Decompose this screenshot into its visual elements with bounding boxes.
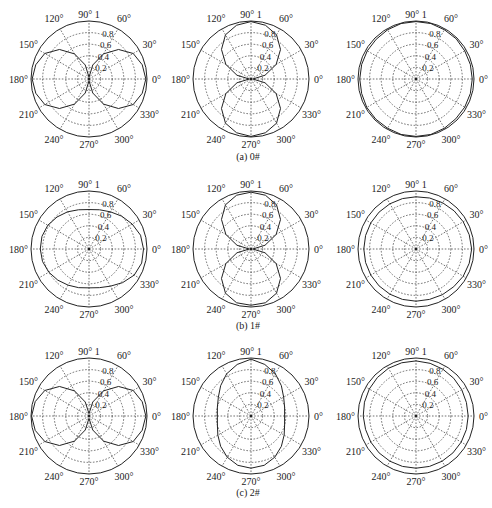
angle-label: 180°	[9, 74, 28, 85]
radial-label: 0.8	[102, 199, 114, 209]
angle-label: 270°	[407, 309, 426, 320]
angle-label: 300°	[115, 134, 134, 145]
radial-label: 0.8	[264, 29, 276, 39]
angle-label: 300°	[442, 304, 461, 315]
angle-label: 90° 1	[240, 9, 262, 20]
polar-plot-2: 0.20.40.60.80°30°60°90° 1120°150°180°210…	[336, 9, 488, 150]
angle-label: 120°	[45, 13, 64, 24]
radial-label: 0.2	[422, 63, 433, 73]
angle-label: 270°	[80, 139, 99, 150]
angle-label: 330°	[302, 279, 321, 290]
angle-label: 300°	[115, 471, 134, 482]
angle-label: 120°	[372, 350, 391, 361]
angle-label: 120°	[45, 183, 64, 194]
angle-label: 180°	[336, 411, 355, 422]
radial-label: 0.6	[262, 40, 274, 50]
angle-label: 150°	[346, 39, 365, 50]
angle-label: 30°	[470, 39, 484, 50]
radial-label: 0.4	[98, 52, 110, 62]
angle-label: 210°	[181, 109, 200, 120]
radial-label: 0.6	[262, 210, 274, 220]
angle-label: 150°	[181, 209, 200, 220]
angle-label: 300°	[277, 134, 296, 145]
angle-label: 300°	[442, 134, 461, 145]
angle-label: 60°	[117, 350, 131, 361]
angle-label: 120°	[372, 13, 391, 24]
angle-label: 240°	[207, 471, 226, 482]
angle-label: 210°	[181, 446, 200, 457]
angle-label: 0°	[479, 411, 488, 422]
radial-label: 0.2	[422, 400, 433, 410]
angle-label: 210°	[346, 446, 365, 457]
radial-label: 0.8	[102, 29, 114, 39]
angle-label: 330°	[140, 279, 159, 290]
angle-label: 270°	[407, 139, 426, 150]
radial-label: 0.4	[425, 52, 437, 62]
angle-label: 30°	[305, 39, 319, 50]
angle-label: 120°	[207, 13, 226, 24]
polar-plot-5: 0.20.40.60.80°30°60°90° 1120°150°180°210…	[336, 179, 488, 320]
polar-plot-0: 0.20.40.60.80°30°60°90° 1120°150°180°210…	[9, 9, 161, 150]
angle-label: 30°	[143, 376, 157, 387]
angle-label: 150°	[181, 376, 200, 387]
angle-label: 210°	[19, 279, 38, 290]
angle-label: 60°	[444, 350, 458, 361]
angle-label: 120°	[45, 350, 64, 361]
radial-label: 0.6	[427, 40, 439, 50]
radial-label: 0.4	[260, 389, 272, 399]
radial-label: 0.4	[425, 222, 437, 232]
angle-label: 240°	[372, 471, 391, 482]
angle-label: 210°	[346, 109, 365, 120]
angle-label: 330°	[467, 279, 486, 290]
angle-label: 270°	[242, 139, 261, 150]
angle-label: 180°	[336, 74, 355, 85]
radial-label: 0.2	[257, 233, 268, 243]
angle-label: 300°	[277, 471, 296, 482]
angle-label: 240°	[372, 134, 391, 145]
radial-label: 0.6	[262, 377, 274, 387]
angle-label: 90° 1	[78, 9, 100, 20]
angle-label: 210°	[181, 279, 200, 290]
radial-label: 0.6	[100, 40, 112, 50]
angle-label: 210°	[19, 109, 38, 120]
angle-label: 330°	[467, 446, 486, 457]
angle-label: 180°	[9, 411, 28, 422]
angle-label: 90° 1	[240, 179, 262, 190]
angle-label: 60°	[279, 350, 293, 361]
radial-label: 0.4	[425, 389, 437, 399]
angle-label: 300°	[277, 304, 296, 315]
caption-c: (c) 2#	[188, 487, 308, 498]
angle-label: 270°	[242, 309, 261, 320]
angle-label: 90° 1	[405, 179, 427, 190]
angle-label: 60°	[117, 13, 131, 24]
angle-label: 0°	[314, 244, 323, 255]
radial-label: 0.8	[264, 366, 276, 376]
angle-label: 90° 1	[78, 346, 100, 357]
angle-label: 150°	[346, 376, 365, 387]
angle-label: 240°	[372, 304, 391, 315]
caption-a: (a) 0#	[188, 151, 308, 162]
radial-label: 0.4	[98, 389, 110, 399]
caption-b: (b) 1#	[188, 320, 308, 331]
polar-plot-3: 0.20.40.60.80°30°60°90° 1120°150°180°210…	[9, 179, 161, 320]
angle-label: 30°	[470, 376, 484, 387]
polar-plot-4: 0.20.40.60.80°30°60°90° 1120°150°180°210…	[171, 179, 323, 320]
angle-label: 240°	[45, 304, 64, 315]
angle-label: 0°	[479, 244, 488, 255]
angle-label: 270°	[407, 476, 426, 487]
radial-label: 0.2	[95, 233, 106, 243]
angle-label: 180°	[336, 244, 355, 255]
radial-label: 0.2	[95, 63, 106, 73]
angle-label: 300°	[115, 304, 134, 315]
angle-label: 30°	[305, 376, 319, 387]
angle-label: 210°	[346, 279, 365, 290]
angle-label: 330°	[302, 446, 321, 457]
angle-label: 330°	[140, 446, 159, 457]
polar-plot-7: 0.20.40.60.80°30°60°90° 1120°150°180°210…	[171, 346, 323, 487]
angle-label: 0°	[479, 74, 488, 85]
polar-plot-6: 0.20.40.60.80°30°60°90° 1120°150°180°210…	[9, 346, 161, 487]
radial-label: 0.2	[257, 63, 268, 73]
angle-label: 300°	[442, 471, 461, 482]
radial-label: 0.8	[429, 29, 441, 39]
angle-label: 180°	[171, 411, 190, 422]
